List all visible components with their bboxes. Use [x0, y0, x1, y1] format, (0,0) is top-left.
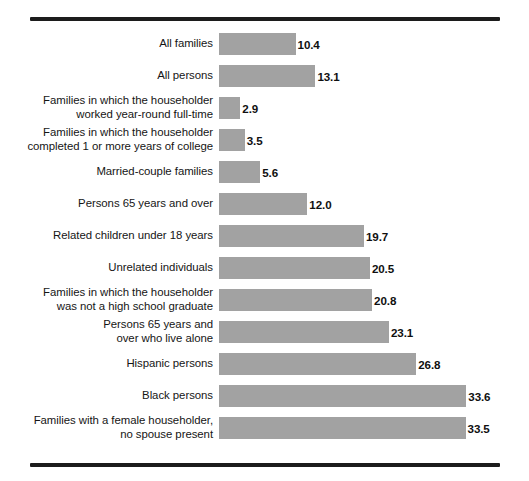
bar-rect[interactable]	[219, 33, 296, 55]
bar-value-label: 2.9	[242, 97, 258, 119]
bar-category-label-line: Married-couple families	[96, 165, 213, 179]
bar-category-label-line: Unrelated individuals	[108, 261, 213, 275]
bar-row: All families10.4	[0, 30, 529, 62]
bar-value-label: 10.4	[298, 33, 320, 55]
chart-plot-area: All families10.4All persons13.1Families …	[0, 30, 529, 454]
bar-category-label-line: Families in which the householder	[43, 286, 213, 300]
bar-track	[219, 161, 260, 183]
bar-category-label-line: no spouse present	[120, 428, 213, 442]
bar-rect[interactable]	[219, 193, 307, 215]
bar-rect[interactable]	[219, 97, 240, 119]
bar-category-label: Unrelated individuals	[10, 254, 213, 281]
bar-category-label-line: Related children under 18 years	[53, 229, 213, 243]
bar-category-label-line: was not a high school graduate	[57, 300, 213, 314]
bar-category-label: Families in which the householderworked …	[10, 94, 213, 121]
bar-track	[219, 129, 245, 151]
bar-category-label: Black persons	[10, 382, 213, 409]
bar-value-label: 33.5	[468, 417, 490, 439]
bar-row: Persons 65 years and over12.0	[0, 190, 529, 222]
bar-rect[interactable]	[219, 289, 372, 311]
bar-category-label-line: All persons	[157, 69, 213, 83]
bar-value-label: 20.5	[372, 257, 394, 279]
bar-rect[interactable]	[219, 65, 315, 87]
bar-track	[219, 225, 364, 247]
bar-category-label: All families	[10, 30, 213, 57]
bar-row: All persons13.1	[0, 62, 529, 94]
bar-row: Black persons33.6	[0, 382, 529, 414]
bar-value-label: 23.1	[391, 321, 413, 343]
bar-category-label-line: Black persons	[142, 389, 213, 403]
bar-row: Families in which the householderwas not…	[0, 286, 529, 318]
bar-value-label: 13.1	[317, 65, 339, 87]
bar-rect[interactable]	[219, 353, 416, 375]
bar-track	[219, 193, 307, 215]
bar-rect[interactable]	[219, 385, 466, 407]
bar-category-label: Persons 65 years andover who live alone	[10, 318, 213, 345]
bar-category-label-line: over who live alone	[116, 332, 213, 346]
bar-value-label: 5.6	[262, 161, 278, 183]
bar-track	[219, 257, 370, 279]
bar-track	[219, 33, 296, 55]
bar-rect[interactable]	[219, 257, 370, 279]
bar-value-label: 33.6	[468, 385, 490, 407]
bar-value-label: 19.7	[366, 225, 388, 247]
bar-row: Families in which the householderworked …	[0, 94, 529, 126]
bar-row: Married-couple families5.6	[0, 158, 529, 190]
bar-category-label: Hispanic persons	[10, 350, 213, 377]
bar-row: Families with a female householder,no sp…	[0, 414, 529, 446]
bar-category-label: Persons 65 years and over	[10, 190, 213, 217]
bar-value-label: 26.8	[418, 353, 440, 375]
bar-category-label-line: completed 1 or more years of college	[27, 140, 213, 154]
poverty-rate-bar-chart: All families10.4All persons13.1Families …	[0, 0, 529, 481]
bar-category-label-line: All families	[159, 37, 213, 51]
bar-rect[interactable]	[219, 417, 466, 439]
bar-track	[219, 417, 466, 439]
bar-category-label-line: Persons 65 years and	[103, 318, 213, 332]
bar-category-label: Married-couple families	[10, 158, 213, 185]
bar-track	[219, 321, 389, 343]
bar-category-label: Families in which the householdercomplet…	[10, 126, 213, 153]
bar-rect[interactable]	[219, 129, 245, 151]
bar-track	[219, 97, 240, 119]
bar-row: Related children under 18 years19.7	[0, 222, 529, 254]
bar-category-label: Families with a female householder,no sp…	[10, 414, 213, 441]
bar-category-label-line: Families in which the householder	[43, 94, 213, 108]
bar-category-label-line: Hispanic persons	[126, 357, 213, 371]
bar-track	[219, 65, 315, 87]
bar-category-label-line: worked year-round full-time	[76, 108, 213, 122]
bottom-rule-divider	[30, 463, 500, 467]
bar-rect[interactable]	[219, 225, 364, 247]
bar-value-label: 3.5	[247, 129, 263, 151]
bar-track	[219, 385, 466, 407]
bar-rect[interactable]	[219, 161, 260, 183]
bar-track	[219, 289, 372, 311]
bar-row: Hispanic persons26.8	[0, 350, 529, 382]
bar-category-label: Related children under 18 years	[10, 222, 213, 249]
bar-track	[219, 353, 416, 375]
bar-category-label-line: Families with a female householder,	[34, 414, 213, 428]
bar-row: Families in which the householdercomplet…	[0, 126, 529, 158]
bar-value-label: 12.0	[309, 193, 331, 215]
top-rule-divider	[30, 17, 500, 21]
bar-row: Persons 65 years andover who live alone2…	[0, 318, 529, 350]
bar-category-label-line: Families in which the householder	[43, 126, 213, 140]
bar-value-label: 20.8	[374, 289, 396, 311]
bar-category-label-line: Persons 65 years and over	[78, 197, 213, 211]
bar-category-label: All persons	[10, 62, 213, 89]
bar-row: Unrelated individuals20.5	[0, 254, 529, 286]
bar-category-label: Families in which the householderwas not…	[10, 286, 213, 313]
bar-rect[interactable]	[219, 321, 389, 343]
